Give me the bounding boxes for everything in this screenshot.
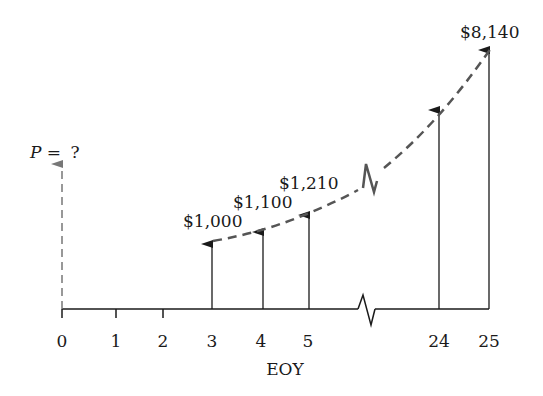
amount-label-3: $1,000	[183, 211, 242, 231]
tick-label-5: 5	[303, 331, 314, 351]
amount-label-4: $1,100	[233, 192, 292, 212]
tick-label-3: 3	[207, 331, 218, 351]
axis-label-eoy: EOY	[266, 359, 304, 379]
amount-label-5: $1,210	[279, 173, 338, 193]
tick-label-2: 2	[158, 331, 169, 351]
tick-label-24: 24	[428, 331, 450, 351]
tick-label-1: 1	[111, 331, 122, 351]
cash-flow-diagram: 0 1 2 3 4 5 24 25 EOY P = ? $1,000 $1,10…	[0, 0, 543, 396]
tick-label-4: 4	[256, 331, 267, 351]
amount-label-25: $8,140	[460, 22, 519, 42]
time-axis	[62, 295, 489, 325]
present-value-label: P = ?	[29, 142, 80, 162]
growth-curve-upper	[384, 48, 491, 168]
tick-label-0: 0	[57, 331, 68, 351]
axis-break-icon	[358, 295, 375, 325]
curve-break-icon	[363, 164, 377, 192]
tick-label-25: 25	[478, 331, 500, 351]
